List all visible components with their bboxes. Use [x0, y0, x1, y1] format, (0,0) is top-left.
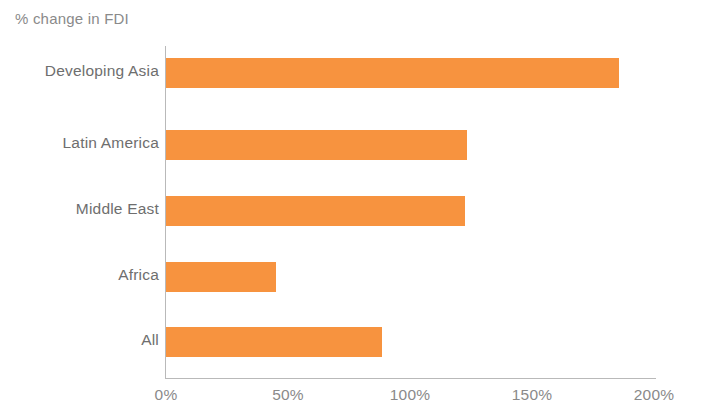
bar-row: Latin America — [0, 130, 707, 160]
x-tick-label-150: 150% — [512, 386, 552, 404]
bar-row: Africa — [0, 262, 707, 292]
plot-area: Developing Asia Latin America Middle Eas… — [0, 0, 707, 412]
bar-category-label: Middle East — [0, 200, 159, 218]
x-tick-label-0: 0% — [155, 386, 178, 404]
x-tick-label-50: 50% — [272, 386, 304, 404]
bar-category-label: Latin America — [0, 134, 159, 152]
x-tick-label-100: 100% — [390, 386, 430, 404]
bar-row: Developing Asia — [0, 58, 707, 88]
x-tick-label-200: 200% — [634, 386, 674, 404]
bar-latin-america — [166, 130, 467, 160]
bar-row: All — [0, 327, 707, 357]
bar-africa — [166, 262, 276, 292]
bar-category-label: Africa — [0, 266, 159, 284]
x-axis-line — [165, 378, 656, 379]
bar-category-label: All — [0, 331, 159, 349]
bar-row: Middle East — [0, 196, 707, 226]
bar-category-label: Developing Asia — [0, 62, 159, 80]
fdi-bar-chart: % change in FDI Developing Asia Latin Am… — [0, 0, 707, 412]
bar-all — [166, 327, 382, 357]
bar-middle-east — [166, 196, 465, 226]
bar-developing-asia — [166, 58, 619, 88]
